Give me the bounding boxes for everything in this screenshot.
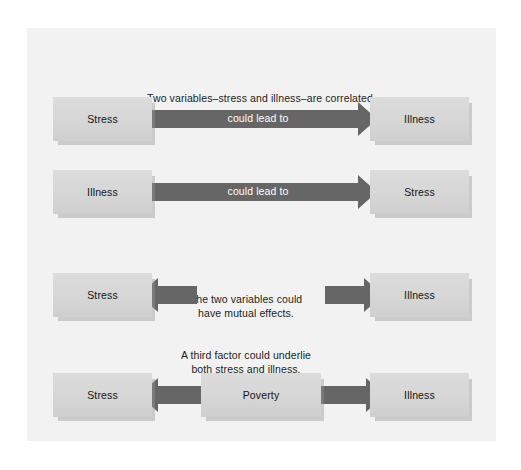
arrow-label: could lead to: [139, 112, 377, 124]
arrow-shaft: [325, 286, 364, 304]
concept-box-center: Poverty: [201, 373, 321, 417]
concept-box-right-label: Illness: [370, 113, 469, 125]
concept-box-right-label: Illness: [370, 289, 469, 301]
arrow-stress-to-illness: could lead to: [139, 97, 377, 141]
concept-box-right: Stress: [370, 170, 469, 214]
concept-box-left-label: Stress: [53, 113, 152, 125]
concept-box-right: Illness: [370, 373, 469, 417]
diagram-row-stress-causes-illness: could lead to Stress Illness: [27, 97, 496, 149]
concept-box-left: Illness: [53, 170, 152, 214]
arrow-label: could lead to: [139, 185, 377, 197]
concept-box-right-label: Illness: [370, 389, 469, 401]
diagram-row-third-factor-poverty: Stress Poverty Illness: [27, 373, 496, 425]
concept-box-left-label: Stress: [53, 289, 152, 301]
concept-box-left: Stress: [53, 273, 152, 317]
concept-box-left-label: Stress: [53, 389, 152, 401]
caption-third-factor: A third factor could underlie both stres…: [156, 349, 336, 376]
concept-box-left-label: Illness: [53, 186, 152, 198]
concept-box-left: Stress: [53, 373, 152, 417]
concept-box-left: Stress: [53, 97, 152, 141]
diagram-panel: Two variables–stress and illness–are cor…: [27, 28, 496, 441]
causal-diagram-figure: Two variables–stress and illness–are cor…: [0, 0, 521, 470]
diagram-row-illness-causes-stress: could lead to Illness Stress: [27, 170, 496, 222]
arrow-shaft: [158, 286, 197, 304]
concept-box-center-label: Poverty: [201, 389, 321, 401]
concept-box-right: Illness: [370, 97, 469, 141]
arrow-illness-to-stress: could lead to: [139, 170, 377, 214]
concept-box-right-label: Stress: [370, 186, 469, 198]
concept-box-right: Illness: [370, 273, 469, 317]
